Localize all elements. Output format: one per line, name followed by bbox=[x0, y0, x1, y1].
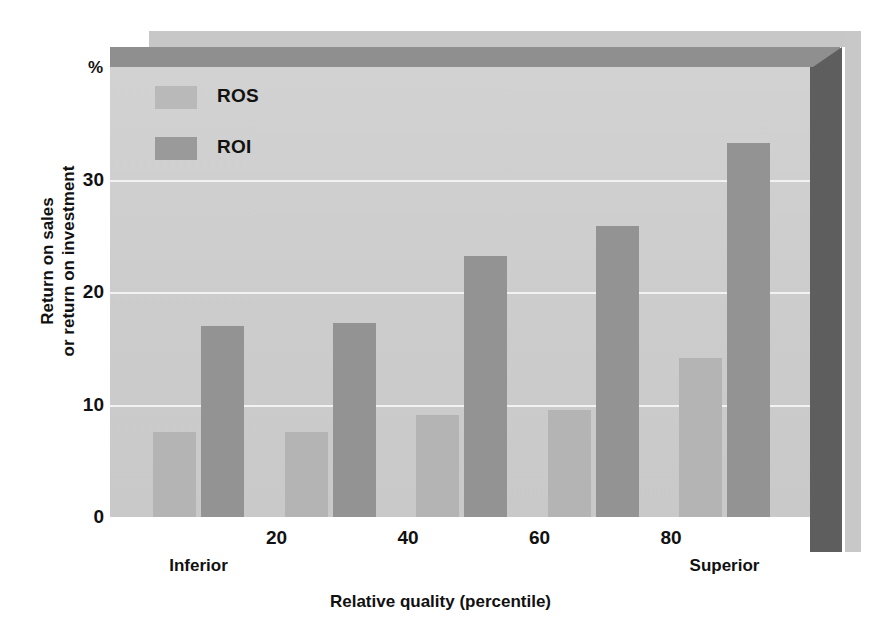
bar-ros-40-60 bbox=[416, 415, 459, 517]
legend-label-ros: ROS bbox=[217, 85, 259, 107]
bar-ros-80-100 bbox=[679, 358, 722, 517]
bar-ros-20-40 bbox=[285, 432, 328, 517]
gridline-20 bbox=[110, 292, 810, 294]
bar-roi-0-20 bbox=[201, 326, 244, 517]
x-tick-label-20: 20 bbox=[266, 527, 287, 549]
bar-ros-0-20 bbox=[153, 432, 196, 517]
y-axis-title-line1: Return on sales bbox=[37, 141, 58, 381]
x-axis-caption-left: Inferior bbox=[169, 556, 228, 576]
box-top-face bbox=[110, 47, 840, 67]
x-tick-label-40: 40 bbox=[397, 527, 418, 549]
box-right-wall bbox=[810, 67, 842, 552]
y-tick-label-0: 0 bbox=[93, 506, 104, 528]
plot-area: ROS ROI bbox=[110, 67, 810, 517]
legend-swatch-ros bbox=[155, 86, 197, 109]
shelf-top-plate bbox=[149, 31, 860, 47]
y-tick-label-30: 30 bbox=[83, 169, 104, 191]
bar-roi-40-60 bbox=[464, 256, 507, 517]
bar-ros-60-80 bbox=[548, 410, 591, 517]
y-axis-title-line2: or return on investment bbox=[58, 141, 79, 381]
x-axis-title: Relative quality (percentile) bbox=[0, 592, 881, 612]
y-axis-title: Return on sales or return on investment bbox=[37, 141, 79, 381]
x-axis-caption-right: Superior bbox=[690, 556, 760, 576]
bar-roi-80-100 bbox=[727, 143, 770, 517]
legend-label-roi: ROI bbox=[217, 136, 252, 158]
shelf-right-plate bbox=[845, 31, 861, 552]
x-tick-label-60: 60 bbox=[529, 527, 550, 549]
legend-swatch-roi bbox=[155, 137, 197, 160]
bar-roi-20-40 bbox=[333, 323, 376, 517]
bar-roi-60-80 bbox=[596, 226, 639, 517]
gridline-30 bbox=[110, 180, 810, 182]
y-tick-label-10: 10 bbox=[83, 394, 104, 416]
x-tick-label-80: 80 bbox=[660, 527, 681, 549]
chart-figure: ROS ROI % 3020100 Return on sales or ret… bbox=[0, 0, 881, 626]
y-tick-label-20: 20 bbox=[83, 281, 104, 303]
